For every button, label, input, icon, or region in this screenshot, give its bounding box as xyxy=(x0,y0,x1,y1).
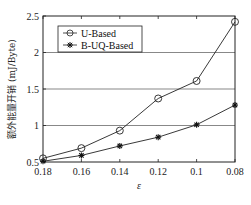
data-point xyxy=(232,18,239,25)
data-point xyxy=(155,95,162,102)
data-point xyxy=(232,102,238,108)
data-point xyxy=(194,122,200,128)
data-point xyxy=(40,158,46,164)
y-tick-label: 1 xyxy=(34,120,39,131)
line-chart: 0.511.522.5 0.180.160.140.120.10.08 U-Ba… xyxy=(0,0,251,205)
y-axis-label: 额外能量开销 (mJ/Byte) xyxy=(6,39,17,139)
x-tick-label: 0.14 xyxy=(111,166,129,177)
legend-label-b-uq-based: B-UQ-Based xyxy=(81,40,133,51)
x-tick-label: 0.16 xyxy=(73,166,91,177)
y-tick-label: 1.5 xyxy=(27,84,40,95)
x-tick-label: 0.18 xyxy=(34,166,52,177)
data-point xyxy=(78,145,85,152)
data-point xyxy=(193,77,200,84)
data-point xyxy=(78,152,84,158)
x-tick-label: 0.08 xyxy=(226,166,244,177)
data-point xyxy=(116,127,123,134)
asterisk-marker-icon xyxy=(67,42,73,48)
data-point xyxy=(117,143,123,149)
y-tick-label: 2.5 xyxy=(27,11,40,22)
legend: U-Based B-UQ-Based xyxy=(58,26,142,52)
x-tick-label: 0.1 xyxy=(190,166,203,177)
series-b-uq-based xyxy=(40,102,238,164)
y-tick-label: 2 xyxy=(34,47,39,58)
x-tick-label: 0.12 xyxy=(149,166,167,177)
x-axis-label: ε xyxy=(137,180,141,191)
data-point xyxy=(155,134,161,140)
legend-label-u-based: U-Based xyxy=(81,28,116,39)
